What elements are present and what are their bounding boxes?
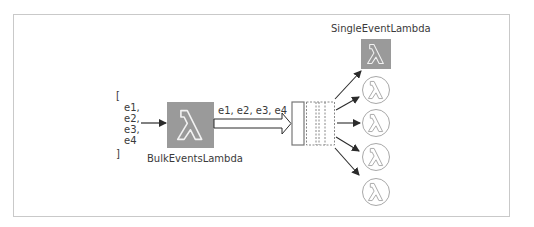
batch-arrow: [214, 113, 291, 134]
bulk-lambda-icon: [167, 102, 214, 148]
queue-icon: [292, 102, 335, 145]
fanout-arrows: [335, 71, 361, 175]
single-lambda-idle-icon: [363, 77, 390, 104]
single-lambda-idle-icon: [363, 144, 390, 171]
single-lambda-active-icon: [361, 39, 391, 69]
single-lambda-idle-icon: [363, 179, 390, 206]
single-lambda-idle-icon: [363, 110, 390, 137]
diagram-canvas: [0, 0, 534, 227]
